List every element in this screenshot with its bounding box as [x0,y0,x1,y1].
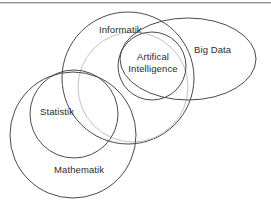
label-artifical-intelligence-line1: Artifical [137,51,169,62]
label-artifical-intelligence-line2: Intelligence [128,63,177,74]
label-statistik: Statistik [40,106,74,117]
label-informatik: Informatik [99,24,142,35]
circle-mathematik [10,72,136,198]
venn-diagram-canvas: Informatik Artifical Intelligence Big Da… [0,0,271,211]
label-mathematik: Mathematik [54,164,104,175]
label-artifical-intelligence: Artifical Intelligence [120,51,186,75]
circle-data-science-ring [78,32,188,142]
label-big-data: Big Data [194,44,231,55]
